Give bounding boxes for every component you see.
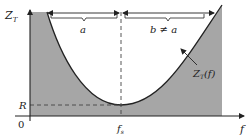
brace-b <box>125 14 204 21</box>
fs-label: fs <box>116 123 124 135</box>
curve-label: ZT(f) <box>192 68 216 80</box>
bracket-a-label: a <box>80 24 86 35</box>
origin-label: 0 <box>18 119 24 130</box>
shaded-region <box>30 5 222 116</box>
brace-a <box>51 14 117 21</box>
bracket-b-label: b ≠ a <box>150 24 177 35</box>
r-label: R <box>18 100 27 111</box>
impedance-diagram: ZT f 0 R fs a b ≠ a ZT(f) <box>0 0 252 137</box>
y-axis-label: ZT <box>4 9 19 24</box>
x-axis-label: f <box>239 123 246 136</box>
